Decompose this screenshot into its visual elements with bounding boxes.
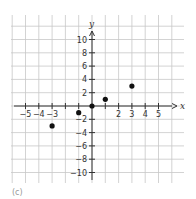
x-tick-label: 3 bbox=[129, 110, 134, 119]
x-tick-label: 4 bbox=[143, 110, 148, 119]
x-tick-label: −4 bbox=[33, 110, 45, 119]
y-tick-label: 10 bbox=[77, 36, 87, 45]
y-tick-label: −4 bbox=[75, 129, 87, 138]
x-tick-label: −3 bbox=[46, 110, 58, 119]
coordinate-plane: xy−5−4−32345108642−2−4−6−8−10 bbox=[0, 0, 196, 199]
data-point bbox=[89, 103, 94, 108]
y-tick-label: −6 bbox=[75, 142, 87, 151]
data-point bbox=[129, 83, 134, 88]
x-tick-label: −5 bbox=[20, 110, 32, 119]
data-point bbox=[76, 110, 81, 115]
y-tick-label: −2 bbox=[75, 115, 87, 124]
y-tick-label: 2 bbox=[82, 89, 87, 98]
figure-caption: (c) bbox=[12, 188, 23, 197]
x-tick-label: 5 bbox=[156, 110, 161, 119]
y-axis-label: y bbox=[88, 19, 95, 29]
data-point bbox=[103, 97, 108, 102]
data-point bbox=[50, 123, 55, 128]
grid bbox=[11, 15, 184, 183]
x-axis-label: x bbox=[180, 101, 185, 111]
x-tick-label: 2 bbox=[116, 110, 121, 119]
y-tick-label: −8 bbox=[75, 155, 87, 164]
y-tick-label: 8 bbox=[82, 49, 87, 58]
y-tick-label: 4 bbox=[82, 75, 87, 84]
y-tick-label: −10 bbox=[70, 169, 87, 178]
y-tick-label: 6 bbox=[82, 62, 87, 71]
